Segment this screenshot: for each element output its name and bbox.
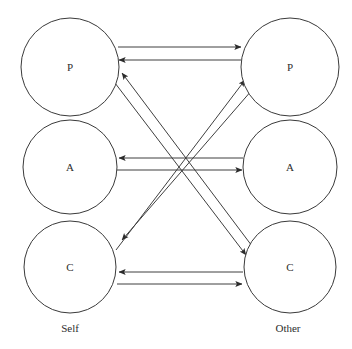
node-self-c[interactable]: C [24,221,116,313]
ego-state-diagram: PACPAC SelfOther [0,0,352,349]
column-label-other: Other [275,322,300,334]
node-label: A [66,161,74,173]
node-label: A [286,161,294,173]
node-other-c[interactable]: C [244,221,336,313]
edges-layer [115,47,252,284]
edge-arrow [115,83,246,255]
edge-arrow [122,73,252,246]
node-label: C [286,261,293,273]
column-labels-layer: SelfOther [61,322,301,334]
node-label: P [67,61,73,73]
column-label-self: Self [61,322,79,334]
edge-arrow [122,90,252,240]
diagram-canvas: PACPAC SelfOther [0,0,352,349]
node-other-p[interactable]: P [241,18,339,116]
node-self-p[interactable]: P [21,18,119,116]
node-label: C [66,261,73,273]
node-other-a[interactable]: A [243,120,337,214]
node-self-a[interactable]: A [23,120,117,214]
node-label: P [287,61,293,73]
